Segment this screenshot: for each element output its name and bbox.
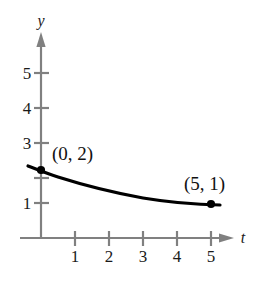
point-marker-0-2	[37, 166, 45, 174]
x-tick-label-4: 4	[173, 247, 182, 266]
y-axis-arrow-icon	[36, 32, 45, 47]
x-tick-label-3: 3	[139, 247, 148, 266]
x-axis-arrow-icon	[219, 233, 234, 242]
x-tick-label-1: 1	[71, 247, 80, 266]
y-tick-label-3: 3	[23, 134, 32, 153]
graph-figure: 5 4 3 1 1 2 3 4 5 y t (0, 2) (5, 1)	[0, 0, 254, 281]
x-tick-label-2: 2	[105, 247, 114, 266]
point-label-5-1: (5, 1)	[184, 173, 225, 195]
x-axis-label: t	[241, 229, 246, 246]
point-label-0-2: (0, 2)	[52, 143, 93, 165]
y-tick-label-1: 1	[23, 194, 32, 213]
plot-canvas: 5 4 3 1 1 2 3 4 5 y t (0, 2) (5, 1)	[0, 0, 254, 281]
y-tick-label-5: 5	[23, 64, 32, 83]
y-axis-label: y	[35, 12, 45, 30]
y-tick-label-4: 4	[23, 99, 32, 118]
x-tick-label-5: 5	[207, 247, 216, 266]
point-marker-5-1	[207, 200, 215, 208]
